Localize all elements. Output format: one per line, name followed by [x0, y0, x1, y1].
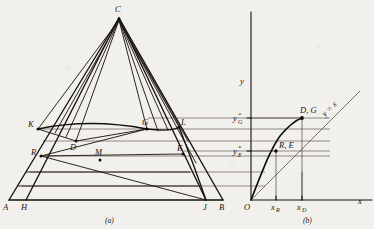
- triangle-outline: [9, 18, 223, 200]
- x-axis-label: x: [357, 196, 362, 206]
- x-tick-D-sub: D: [301, 207, 307, 213]
- point-G-marker: [146, 128, 149, 131]
- binodal-crest: [147, 127, 179, 130]
- label-point-R-E: R, E: [278, 140, 294, 150]
- y-tick-E-sub: E: [237, 152, 242, 158]
- y-tick-label-G: y * G: [232, 112, 243, 125]
- y-tick-E-star: *: [238, 145, 241, 151]
- y-tick-G-base: y: [232, 113, 237, 123]
- origin-label: O: [244, 202, 250, 212]
- label-point-R: R: [30, 147, 37, 157]
- label-point-L: L: [180, 117, 186, 127]
- projection-lines: [251, 118, 302, 200]
- x-tick-R-base: x: [270, 202, 275, 212]
- label-point-J: J: [203, 202, 208, 212]
- y-axis-label: y: [239, 76, 244, 86]
- label-point-H: H: [20, 202, 28, 212]
- x-tick-label-D: x D: [296, 202, 307, 213]
- point-R-marker: [40, 155, 43, 158]
- panel-b: y x O y * G y * E x R x D R, E D, G y = …: [232, 12, 372, 225]
- point-M-marker: [99, 159, 102, 162]
- x-tick-R-sub: R: [275, 207, 280, 213]
- label-point-E: E: [176, 143, 183, 153]
- label-point-G: G: [142, 117, 148, 127]
- label-point-B: B: [219, 202, 224, 212]
- point-K-marker: [37, 128, 40, 131]
- panel-a: C K D R M G L E A H J B (a): [2, 4, 330, 225]
- label-diagonal-y-equals-x: y = x: [319, 99, 339, 119]
- caption-panel-a: (a): [105, 216, 114, 225]
- point-R-E-marker: [274, 149, 277, 152]
- y-tick-E-base: y: [232, 146, 237, 156]
- caption-panel-b: (b): [303, 216, 312, 225]
- label-point-D: D: [69, 142, 77, 152]
- point-C-marker: [118, 18, 121, 21]
- y-tick-G-sub: G: [238, 119, 243, 125]
- point-D-G-marker: [300, 116, 304, 120]
- fan-lines-from-apex: [38, 20, 196, 163]
- label-point-K: K: [27, 119, 35, 129]
- label-point-M: M: [94, 147, 103, 157]
- x-tick-label-R: x R: [270, 202, 280, 213]
- label-point-C: C: [115, 4, 121, 14]
- x-tick-D-base: x: [296, 202, 301, 212]
- y-tick-G-star: *: [238, 112, 241, 118]
- figure-root: C K D R M G L E A H J B (a): [0, 0, 374, 229]
- label-point-A: A: [2, 202, 9, 212]
- equilibrium-curve: [251, 118, 302, 200]
- label-point-D-G: D, G: [299, 105, 317, 115]
